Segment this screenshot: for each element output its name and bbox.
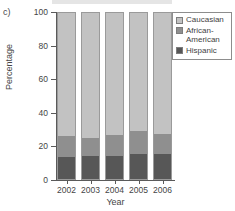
x-tick-mark-2003 (91, 180, 92, 184)
bar-segment-2006-hispanic (153, 154, 172, 180)
legend-label-caucasian: Caucasian (186, 15, 224, 25)
legend-item-caucasian: Caucasian (176, 15, 229, 25)
y-tick-label-40: 40 (26, 109, 48, 117)
figure-panel-c: c) 0 20 40 60 80 100 Percentage 2002 200… (0, 0, 235, 211)
bar-segment-2006-african-american (153, 134, 172, 154)
bar-segment-2005-african-american (129, 131, 148, 154)
scan-artifact-band (52, 0, 172, 4)
x-axis-title: Year (56, 197, 175, 207)
legend-swatch-caucasian (176, 17, 183, 24)
y-tick-label-80: 80 (26, 42, 48, 50)
legend-item-african-american: African- American (176, 26, 229, 45)
bar-segment-2003-african-american (81, 138, 100, 156)
legend-swatch-african-american (176, 27, 183, 34)
bar-segment-2002-african-american (57, 136, 76, 157)
legend-swatch-hispanic (176, 47, 183, 54)
bar-segment-2004-hispanic (105, 156, 124, 180)
bar-segment-2002-hispanic (57, 157, 76, 180)
bar-segment-2005-caucasian (129, 12, 148, 131)
y-tick-label-20: 20 (26, 142, 48, 150)
x-tick-label-2006: 2006 (148, 185, 178, 195)
legend-item-hispanic: Hispanic (176, 46, 229, 56)
y-tick-label-100: 100 (26, 8, 48, 16)
y-tick-mark-0 (51, 180, 56, 181)
panel-label: c) (3, 7, 11, 17)
bar-segment-2005-hispanic (129, 154, 148, 180)
bar-segment-2006-caucasian (153, 12, 172, 134)
bar-segment-2004-african-american (105, 135, 124, 156)
x-tick-mark-2006 (163, 180, 164, 184)
x-tick-mark-2002 (67, 180, 68, 184)
x-tick-mark-2005 (139, 180, 140, 184)
bar-segment-2004-caucasian (105, 12, 124, 135)
bar-2002 (57, 12, 76, 180)
legend-label-hispanic: Hispanic (186, 46, 217, 56)
bar-2006 (153, 12, 172, 180)
bar-2003 (81, 12, 100, 180)
x-axis-line (56, 180, 175, 181)
legend-label-african-american: African- American (186, 26, 220, 45)
legend: Caucasian African- American Hispanic (172, 12, 232, 60)
bar-segment-2003-hispanic (81, 156, 100, 180)
y-tick-label-0: 0 (26, 176, 48, 184)
bar-2004 (105, 12, 124, 180)
x-tick-mark-2004 (115, 180, 116, 184)
bar-2005 (129, 12, 148, 180)
y-tick-label-60: 60 (26, 75, 48, 83)
y-axis-title: Percentage (4, 17, 14, 117)
bar-segment-2003-caucasian (81, 12, 100, 138)
bar-segment-2002-caucasian (57, 12, 76, 136)
bars-layer (56, 12, 175, 180)
